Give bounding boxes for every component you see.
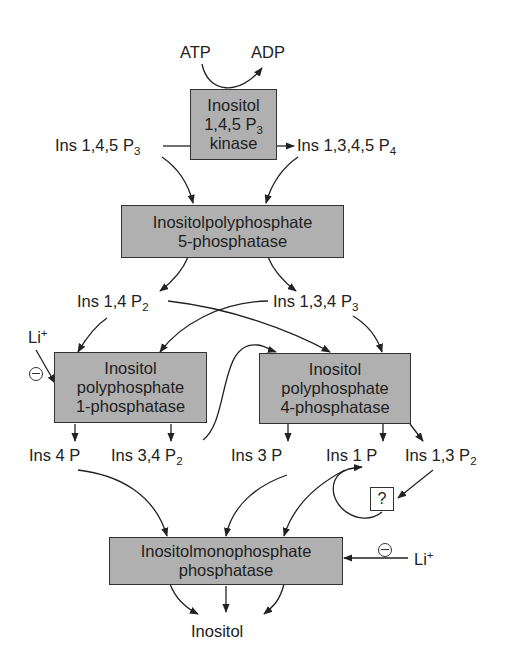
enzyme-5-phosphatase: Inositolpolyphosphate 5-phosphatase <box>121 205 344 258</box>
metabolite-ins4p: Ins 4 P <box>29 446 80 464</box>
kinase-line1: Inositol <box>207 96 259 115</box>
enzyme-4-phosphatase: Inositol polyphosphate 4-phosphatase <box>259 353 411 424</box>
phosphatase4-line2: polyphosphate <box>281 379 388 398</box>
metabolite-ins34p2: Ins 3,4 P2 <box>111 446 183 464</box>
enzyme-1-phosphatase: Inositol polyphosphate 1-phosphatase <box>54 352 207 423</box>
enzyme-kinase: Inositol 1,4,5 P3 kinase <box>190 89 277 160</box>
metabolite-ins1p: Ins 1 P <box>326 446 377 464</box>
monophosphatase-line2: phosphatase <box>179 561 274 580</box>
monophosphatase-line1: Inositolmonophosphate <box>141 542 312 561</box>
metabolite-ins145p3: Ins 1,4,5 P3 <box>55 136 140 154</box>
metabolite-ins13p2: Ins 1,3 P2 <box>405 446 477 464</box>
atp-label: ATP <box>180 43 211 61</box>
phosphatase1-line3: 1-phosphatase <box>76 397 185 416</box>
metabolite-ins134p3: Ins 1,3,4 P3 <box>273 292 358 310</box>
inhibition-minus-icon-bottom <box>378 543 392 557</box>
unknown-step-box: ? <box>370 487 394 511</box>
metabolite-ins3p: Ins 3 P <box>231 446 282 464</box>
phosphatase5-line1: Inositolpolyphosphate <box>153 213 313 232</box>
inhibitor-li-bottom: Li+ <box>414 550 434 568</box>
adp-label: ADP <box>251 43 285 61</box>
inhibition-minus-icon <box>29 367 43 381</box>
inhibitor-li-top: Li+ <box>28 328 48 346</box>
metabolite-inositol: Inositol <box>191 622 243 640</box>
phosphatase5-line2: 5-phosphatase <box>178 232 287 251</box>
metabolite-ins1345p4: Ins 1,3,4,5 P4 <box>297 136 396 154</box>
phosphatase4-line3: 4-phosphatase <box>280 398 389 417</box>
enzyme-monophosphatase: Inositolmonophosphate phosphatase <box>109 537 343 585</box>
phosphatase1-line1: Inositol <box>104 359 156 378</box>
kinase-line3: kinase <box>210 134 258 153</box>
phosphatase4-line1: Inositol <box>309 360 361 379</box>
metabolite-ins14p2: Ins 1,4 P2 <box>77 292 149 310</box>
phosphatase1-line2: polyphosphate <box>77 378 184 397</box>
kinase-line2: 1,4,5 P3 <box>204 115 263 134</box>
